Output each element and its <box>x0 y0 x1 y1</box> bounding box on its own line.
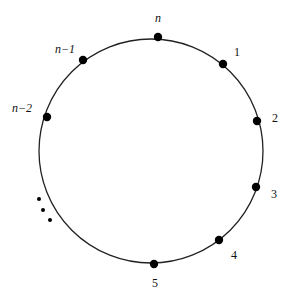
node-2-label: 2 <box>272 111 278 125</box>
node-1-dot <box>219 60 227 68</box>
circle-outline <box>39 39 263 263</box>
node-4-label: 4 <box>231 248 237 262</box>
node-3-dot <box>252 183 260 191</box>
node-n-2-label: n−2 <box>12 101 32 115</box>
ellipsis-dots <box>37 197 52 222</box>
circle-diagram: n12345n−1n−2 <box>0 0 293 301</box>
node-5-label: 5 <box>152 276 158 290</box>
ellipsis-dot <box>48 218 52 222</box>
node-2-dot <box>253 117 261 125</box>
node-3-label: 3 <box>271 187 277 201</box>
ellipsis-dot <box>37 197 41 201</box>
node-n-dot <box>154 33 162 41</box>
node-n-2-dot <box>43 113 51 121</box>
ellipsis-dot <box>41 208 45 212</box>
label-group: n12345n−1n−2 <box>12 11 278 290</box>
node-n-1-dot <box>79 56 87 64</box>
node-n-1-label: n−1 <box>55 42 75 56</box>
node-4-dot <box>215 236 223 244</box>
node-n-label: n <box>155 11 161 25</box>
node-1-label: 1 <box>234 45 240 59</box>
node-5-dot <box>150 260 158 268</box>
